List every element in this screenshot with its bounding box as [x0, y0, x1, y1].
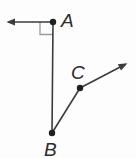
label-point-c: C [71, 62, 85, 83]
label-point-a: A [60, 10, 74, 31]
geometry-figure: A B C [0, 0, 136, 158]
segment-ab [52, 22, 53, 133]
point-c [77, 85, 83, 91]
segment-bc [52, 88, 80, 133]
label-point-b: B [44, 139, 57, 158]
point-b [49, 130, 55, 136]
point-a [50, 19, 56, 25]
ray-from-c-northeast [80, 65, 125, 89]
